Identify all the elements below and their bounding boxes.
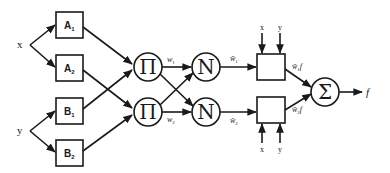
svg-text:x: x	[260, 23, 264, 32]
x-fanout-arrows	[30, 25, 55, 67]
w2-label: w2	[167, 115, 175, 125]
y-fanout-arrows	[30, 111, 55, 152]
w1-norm-label: w̄1	[230, 54, 238, 64]
layer1-to-layer2-arrows	[83, 27, 132, 151]
node-a2: A2	[56, 55, 83, 81]
node-a1: A1	[56, 12, 83, 38]
layer4-bottom-inputs: x y	[260, 124, 282, 154]
svg-text:Π: Π	[139, 100, 156, 124]
svg-text:y: y	[278, 23, 282, 32]
node-n-2: N	[192, 98, 220, 126]
anfis-diagram: x y A1 A2 B1 B2 Π Π	[0, 0, 390, 173]
svg-text:Σ: Σ	[318, 80, 332, 104]
node-pi-2: Π	[134, 98, 162, 126]
layer4-top-inputs: x y	[260, 23, 282, 53]
node-b1: B1	[56, 98, 83, 124]
w2f-label: w̄2f	[292, 105, 304, 115]
w1f-label: w̄1f	[292, 62, 304, 72]
layer4-to-sigma-arrows	[285, 69, 311, 110]
svg-text:N: N	[197, 55, 215, 79]
node-layer4-2	[257, 97, 285, 123]
w1-label: w1	[167, 55, 175, 65]
layer3-to-layer4-arrows	[220, 67, 256, 112]
svg-text:y: y	[278, 145, 282, 154]
node-sigma: Σ	[311, 78, 339, 106]
input-x-label: x	[17, 38, 23, 50]
input-y-label: y	[17, 124, 23, 136]
node-pi-1: Π	[134, 53, 162, 81]
svg-text:Π: Π	[139, 55, 156, 79]
node-n-1: N	[192, 53, 220, 81]
output-f-label: f	[366, 86, 371, 98]
svg-text:x: x	[260, 145, 264, 154]
node-layer4-1	[257, 54, 285, 80]
node-b2: B2	[56, 140, 83, 166]
svg-text:N: N	[197, 100, 215, 124]
w2-norm-label: w̄2	[230, 116, 238, 126]
layer2-to-layer3-arrows	[160, 67, 193, 112]
